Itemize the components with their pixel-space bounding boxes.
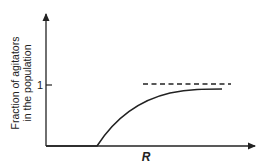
y-axis-label-line1: Fraction of agitators bbox=[9, 37, 21, 130]
chart-canvas: Fraction of agitators in the population … bbox=[0, 0, 264, 167]
y-axis-label-line2: in the population bbox=[21, 44, 33, 121]
y-axis-label: Fraction of agitators in the population bbox=[9, 37, 33, 130]
y-tick-label-1: 1 bbox=[37, 79, 43, 91]
chart: Fraction of agitators in the population … bbox=[0, 0, 264, 167]
x-axis-label: R bbox=[142, 150, 151, 164]
fraction-curve bbox=[46, 89, 222, 146]
